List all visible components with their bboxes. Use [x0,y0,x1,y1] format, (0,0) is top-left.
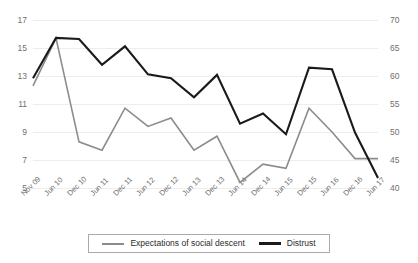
legend-item-label: Expectations of social descent [130,239,244,248]
series-line-expectations-of-social-descent [33,38,378,182]
chart-container: 57911131517 40455055606570 Nov 09Jun 10D… [0,0,418,263]
legend-item-label: Distrust [287,239,316,248]
legend-item-expectations-of-social-descent[interactable]: Expectations of social descent [102,239,244,248]
legend-item-distrust[interactable]: Distrust [259,239,316,248]
legend-line-swatch [102,243,124,245]
legend-line-swatch [259,242,281,245]
chart-legend: Expectations of social descentDistrust [88,234,330,253]
series-line-distrust [33,38,378,178]
plot-area [0,0,418,263]
